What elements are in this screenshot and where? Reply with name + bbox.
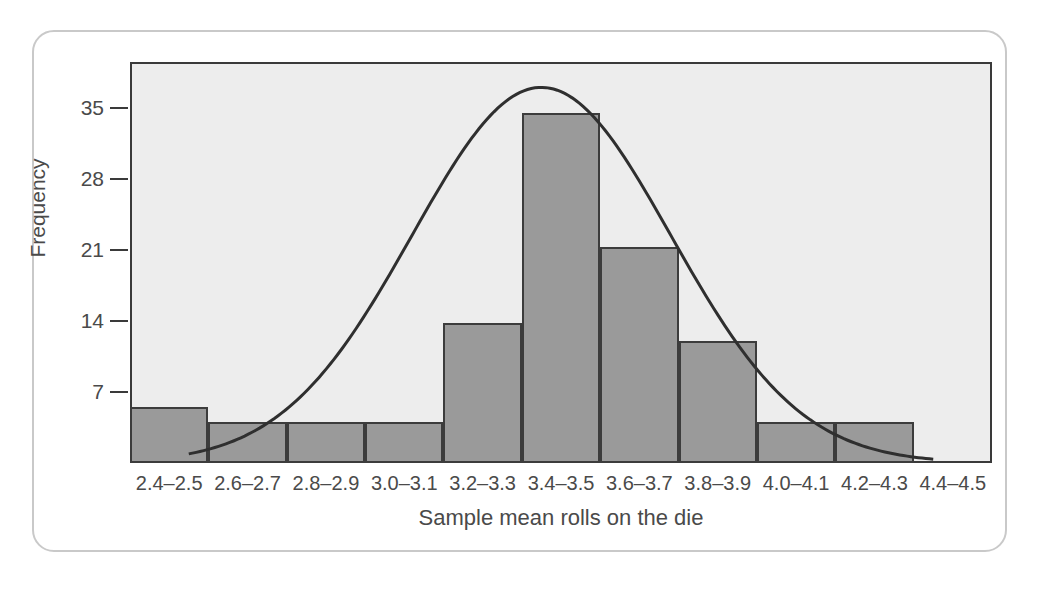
y-axis-tick-label: 21 [0,238,104,262]
x-axis-tick-label: 2.8–2.9 [287,472,365,495]
y-axis-tick-label: 7 [0,380,104,404]
histogram-bar [208,422,286,463]
histogram-bar [600,247,678,463]
bar-series [130,62,992,463]
y-axis-title: Frequency [26,108,50,308]
y-axis-tick [110,107,128,109]
y-axis-tick [110,391,128,393]
histogram-bar [522,113,600,463]
histogram-bar [835,422,913,463]
x-axis-title: Sample mean rolls on the die [130,505,992,531]
y-axis-tick-label: 35 [0,96,104,120]
x-axis-tick-label: 3.0–3.1 [365,472,443,495]
y-axis-tick [110,178,128,180]
histogram-bar [443,323,521,463]
histogram-bar [287,422,365,463]
x-axis-tick-label: 2.4–2.5 [130,472,208,495]
y-axis-tick-label: 28 [0,167,104,191]
x-axis-tick-label: 4.0–4.1 [757,472,835,495]
x-axis-tick-label: 4.2–4.3 [835,472,913,495]
y-axis-tick [110,249,128,251]
x-axis-tick-label: 3.8–3.9 [679,472,757,495]
x-axis-tick-label: 2.6–2.7 [208,472,286,495]
y-axis-tick-label: 14 [0,309,104,333]
histogram-bar [757,422,835,463]
histogram-figure: 714212835 Frequency 2.4–2.52.6–2.72.8–2.… [0,0,1039,596]
x-axis-tick-label: 3.6–3.7 [600,472,678,495]
x-axis-tick-label: 3.2–3.3 [443,472,521,495]
x-axis-tick-label: 3.4–3.5 [522,472,600,495]
histogram-bar [679,341,757,463]
y-axis-tick [110,320,128,322]
histogram-bar [365,422,443,463]
page-root: reely software you are looking for. A co… [0,0,1039,596]
histogram-bar [130,407,208,463]
x-axis-tick-label: 4.4–4.5 [914,472,992,495]
